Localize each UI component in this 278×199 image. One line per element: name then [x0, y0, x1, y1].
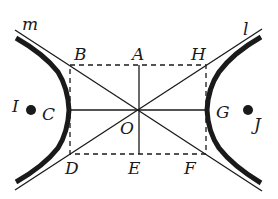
label-C: C [42, 104, 55, 124]
focus-I-dot [26, 105, 36, 115]
diagram-canvas: m l B A H I C O G J D E F [0, 0, 278, 199]
label-H: H [190, 44, 207, 64]
label-O: O [120, 118, 134, 138]
hyperbola-diagram: m l B A H I C O G J D E F [0, 0, 278, 199]
label-D: D [64, 158, 79, 178]
label-I: I [11, 96, 19, 116]
label-E: E [127, 158, 141, 178]
label-B: B [73, 44, 87, 64]
label-F: F [183, 158, 197, 178]
focus-J-dot [243, 105, 253, 115]
label-A: A [130, 44, 144, 64]
label-G: G [216, 102, 230, 122]
label-m: m [22, 14, 38, 34]
label-l: l [243, 19, 248, 39]
label-J: J [251, 114, 262, 134]
